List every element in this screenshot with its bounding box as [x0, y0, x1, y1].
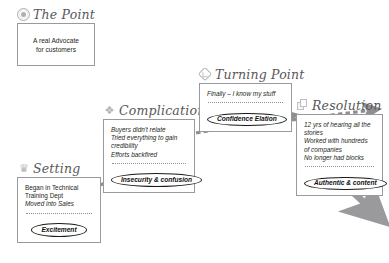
turning-point-card: Finally – I know my stuff Confidence Ela… [199, 83, 292, 132]
resolution-line-5: No longer had blocks [304, 154, 375, 162]
trophy-icon: ♛ [17, 162, 30, 175]
the-point-heading: The Point [17, 6, 95, 22]
complication-divider [112, 163, 186, 164]
complication-title: Complication [119, 104, 205, 117]
swirl-icon: ❖ [103, 104, 116, 117]
complication-emotion-badge: Insecurity & confusion [111, 173, 202, 187]
complication-line-1: Buyers didn't relate [111, 126, 187, 134]
node-complication: ❖ Complication Buyers didn't relate Trie… [103, 102, 205, 193]
setting-card: Began in Technical Training Dept Moved i… [17, 177, 101, 243]
resolution-heading: Resolution [296, 97, 383, 113]
resolution-line-1: 12 yrs of hearing all the [304, 121, 375, 129]
complication-line-3: credibility [111, 142, 187, 150]
complication-heading: ❖ Complication [103, 102, 205, 118]
setting-line-3: Moved into Sales [25, 200, 93, 208]
seal-icon [17, 8, 30, 21]
story-arc-diagram: The Point A real Advocate for customers … [0, 0, 389, 263]
setting-divider [26, 213, 92, 214]
node-turning-point: Turning Point Finally – I know my stuff … [199, 66, 305, 132]
complication-line-2: Tried everything to gain [111, 134, 187, 142]
resolution-emotion-badge: Authentic & content [304, 177, 387, 191]
resolution-emotion-wrap: Authentic & content [304, 171, 375, 190]
diamond-icon [199, 68, 212, 81]
the-point-line-2: for customers [36, 45, 76, 54]
complication-line-4: Efforts backfired [111, 151, 187, 159]
setting-line-1: Began in Technical [25, 184, 93, 192]
the-point-card: A real Advocate for customers [17, 23, 95, 66]
turning-point-line-1: Finally – I know my stuff [207, 90, 284, 98]
the-point-line-1: A real Advocate [33, 36, 79, 45]
complication-emotion-wrap: Insecurity & confusion [111, 168, 187, 187]
node-resolution: Resolution 12 yrs of hearing all the sto… [296, 97, 383, 196]
turning-point-heading: Turning Point [199, 66, 305, 82]
setting-line-2: Training Dept [25, 192, 93, 200]
cube-icon [296, 99, 309, 112]
resolution-divider [305, 166, 374, 167]
setting-heading: ♛ Setting [17, 160, 101, 176]
complication-card: Buyers didn't relate Tried everything to… [103, 119, 195, 193]
resolution-line-3: Worked with hundreds [304, 137, 375, 145]
resolution-line-4: of companies [304, 146, 375, 154]
turning-point-title: Turning Point [215, 68, 305, 81]
setting-emotion-wrap: Excitement [25, 218, 93, 237]
node-the-point: The Point A real Advocate for customers [17, 6, 95, 66]
turning-point-divider [208, 102, 283, 103]
turning-point-emotion-wrap: Confidence Elation [207, 107, 284, 126]
setting-title: Setting [33, 162, 80, 175]
the-point-title: The Point [33, 8, 95, 21]
resolution-card: 12 yrs of hearing all the stories Worked… [296, 114, 383, 196]
resolution-line-2: stories [304, 129, 375, 137]
setting-emotion-badge: Excitement [31, 223, 86, 237]
resolution-title: Resolution [312, 99, 381, 112]
turning-point-emotion-badge: Confidence Elation [207, 113, 287, 127]
node-setting: ♛ Setting Began in Technical Training De… [17, 160, 101, 243]
